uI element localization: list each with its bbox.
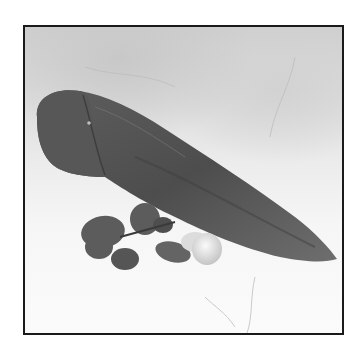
food-photo bbox=[25, 27, 342, 333]
photo-frame bbox=[23, 25, 344, 335]
